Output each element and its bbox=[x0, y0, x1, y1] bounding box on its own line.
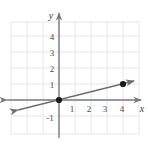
graph-canvas: 1 2 3 4 1 2 3 4 -1 y x bbox=[0, 0, 148, 144]
y-axis-label: y bbox=[48, 10, 54, 21]
y-tick-label-negative-1: -1 bbox=[46, 113, 54, 123]
x-tick-label-4: 4 bbox=[120, 104, 125, 114]
y-tick-label-2: 2 bbox=[50, 64, 55, 74]
y-tick-label-1: 1 bbox=[50, 80, 55, 90]
x-tick-label-2: 2 bbox=[87, 104, 92, 114]
x-tick-label-3: 3 bbox=[103, 104, 108, 114]
data-point-4-1 bbox=[120, 81, 126, 87]
coordinate-graph-figure: 1 2 3 4 1 2 3 4 -1 y x bbox=[0, 0, 148, 144]
y-tick-label-3: 3 bbox=[50, 48, 55, 58]
plotted-line bbox=[18, 81, 134, 110]
x-axis-label: x bbox=[139, 103, 145, 114]
y-tick-label-4: 4 bbox=[50, 32, 55, 42]
data-point-origin bbox=[56, 97, 62, 103]
grid-lines bbox=[11, 22, 139, 134]
x-tick-label-1: 1 bbox=[70, 104, 75, 114]
